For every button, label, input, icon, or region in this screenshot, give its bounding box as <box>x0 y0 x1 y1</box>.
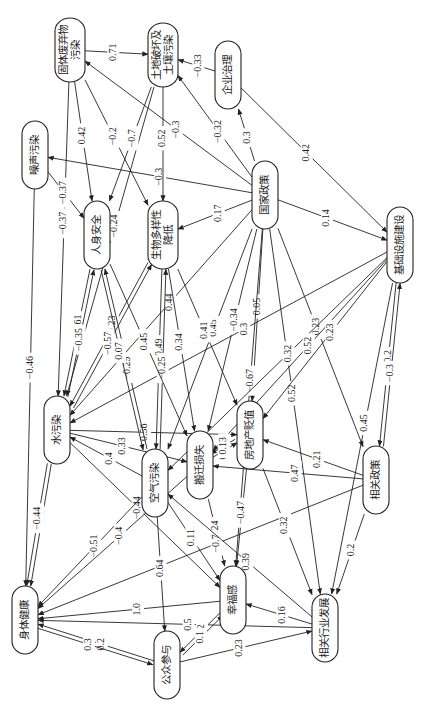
edge-weight-label: 0.52 <box>302 337 313 355</box>
edge-national_policy-to-industry: 0.52 <box>270 229 321 594</box>
node-enterprise: 企业治理 <box>215 41 241 109</box>
node-label: 污染 <box>69 39 81 60</box>
node-infrastructure: 基础设施建设 <box>387 207 413 283</box>
edge-weight-label: 0.2 <box>345 544 356 557</box>
edge-weight-label: 0.42 <box>76 127 87 145</box>
edge-weight-label: 0.13 <box>217 437 228 455</box>
edge-weight-label: 0.39 <box>240 553 251 571</box>
node-land: 土地破坏及土壤污染 <box>148 23 178 87</box>
node-label: 公众参与 <box>160 645 172 685</box>
edge-weight-label: 0.1 <box>194 631 205 644</box>
node-label: 生物多样性 <box>150 210 162 260</box>
edge-weight-label: 0.52 <box>156 130 167 148</box>
edge-national_policy-to-enterprise: 0.3 <box>238 109 254 161</box>
edge-industry-to-happiness: 0.16 <box>246 603 312 627</box>
edge-water-to-relocation: 0.33 <box>70 433 187 462</box>
edge-weight-label: −0.44 <box>131 496 142 519</box>
edge-national_policy-to-biodiversity: 0.17 <box>178 200 252 229</box>
edge-weight-label: −0.7 <box>126 129 137 147</box>
edge-arrow <box>270 229 321 594</box>
edge-weight-label: 0.23 <box>324 323 335 341</box>
edge-related_policy-to-real_estate: 0.21 <box>263 440 363 476</box>
edge-weight-label: 0.32 <box>282 345 293 363</box>
edge-solid_waste-to-water: −0.37 <box>57 82 70 396</box>
node-label: 房地产贬值 <box>243 409 255 460</box>
edge-weight-label: 0.2 <box>382 350 393 363</box>
edge-related_policy-to-infrastructure: −0.3 <box>383 283 400 446</box>
edge-weight-label: 0.14 <box>320 209 331 227</box>
edge-weight-label: 0.3 <box>238 323 249 336</box>
edge-weight-label: 1.0 <box>131 603 142 616</box>
edge-weight-label: 0.16 <box>276 606 287 624</box>
edge-weight-label: −0.67 <box>244 369 255 392</box>
edge-weight-label: 0.32 <box>278 516 289 534</box>
edge-weight-label: −0.57 <box>102 332 113 355</box>
edge-solid_waste-to-safety: 0.42 <box>75 82 92 201</box>
edge-infrastructure-to-industry: 0.45 <box>332 283 393 594</box>
edge-related_policy-to-relocation: 0.47 <box>213 461 363 485</box>
node-label: 幸福感 <box>226 584 238 615</box>
edge-national_policy-to-related_policy: 0.23 <box>278 228 363 446</box>
node-label: 噪声污染 <box>28 134 40 175</box>
node-noise: 噪声污染 <box>22 121 48 189</box>
edge-weight-label: 0.47 <box>289 464 300 482</box>
node-label: 搬迁损失 <box>193 444 205 485</box>
edge-weight-label: 0.45 <box>138 333 149 351</box>
node-label: 固体废弃物 <box>57 25 69 75</box>
edges-layer: 0.71−0.330.420.3−0.3−0.32−0.30.170.140.4… <box>24 40 400 665</box>
edge-national_policy-to-infrastructure: 0.14 <box>278 200 387 240</box>
node-label: 企业治理 <box>221 54 233 95</box>
edge-weight-label: 0.33 <box>116 437 127 455</box>
node-label: 身体健康 <box>18 599 30 640</box>
edge-weight-label: −0.46 <box>24 356 35 379</box>
edge-arrow <box>70 430 237 434</box>
edge-weight-label: 0.23 <box>310 318 321 336</box>
edge-weight-label: −0.32 <box>212 120 223 143</box>
edge-weight-label: −0.25 <box>156 357 167 380</box>
node-participation: 公众参与 <box>154 631 180 699</box>
edge-weight-label: −0.7 <box>210 534 221 552</box>
path-diagram: 0.71−0.330.420.3−0.3−0.32−0.30.170.140.4… <box>0 0 426 720</box>
edge-weight-label: 0.21 <box>311 451 322 469</box>
node-industry: 相关行业发展 <box>312 594 338 662</box>
edge-weight-label: 0.4 <box>103 452 114 465</box>
edge-biodiversity-to-relocation: 0.34 <box>168 269 194 431</box>
edge-weight-label: −0.37 <box>57 181 68 204</box>
node-safety: 人身安全 <box>84 201 110 269</box>
edge-weight-label: −0.3 <box>170 120 181 138</box>
node-label: 水污染 <box>50 414 62 445</box>
edge-weight-label: 0.2 <box>95 638 106 651</box>
edge-weight-label: 0.71 <box>107 44 118 62</box>
edge-arrow <box>38 620 312 627</box>
edge-weight-label: 0.64 <box>154 560 165 578</box>
node-label: 空气污染 <box>148 462 160 503</box>
node-water: 水污染 <box>44 396 70 464</box>
node-label: 降低 <box>162 224 174 245</box>
node-national_policy: 国家政策 <box>252 161 278 229</box>
edge-weight-label: −0.2 <box>107 127 118 145</box>
edge-industry-to-health: 0.5 <box>38 615 312 634</box>
edge-weight-label: −0.33 <box>192 54 203 77</box>
edge-arrow <box>332 283 393 594</box>
edge-weight-label: −0.51 <box>88 534 99 557</box>
edge-enterprise-to-land: −0.33 <box>178 51 215 81</box>
node-real_estate: 房地产贬值 <box>237 401 263 469</box>
edge-safety-to-air: 0.07 <box>101 270 143 450</box>
edge-health-to-participation: 0.3 <box>37 628 153 665</box>
node-label: 相关政策 <box>369 459 381 500</box>
node-biodiversity: 生物多样性降低 <box>148 201 178 269</box>
node-label: 土壤污染 <box>162 34 174 75</box>
edge-weight-label: 0.42 <box>300 144 311 162</box>
node-air: 空气污染 <box>142 449 168 517</box>
node-solid_waste: 固体废弃物污染 <box>55 18 85 82</box>
edge-related_policy-to-industry: 0.2 <box>337 514 365 594</box>
edge-weight-label: −0.37 <box>57 212 68 235</box>
edge-weight-label: −0.3 <box>384 364 395 382</box>
edge-arrow <box>58 82 69 396</box>
edge-weight-label: −0.44 <box>31 507 42 530</box>
node-happiness: 幸福感 <box>220 566 246 634</box>
edge-participation-to-health: 0.2 <box>38 624 154 661</box>
edge-air-to-water: 0.4 <box>70 437 142 476</box>
edge-weight-label: 0.17 <box>212 204 223 222</box>
edge-weight-label: 0.3 <box>82 638 93 651</box>
